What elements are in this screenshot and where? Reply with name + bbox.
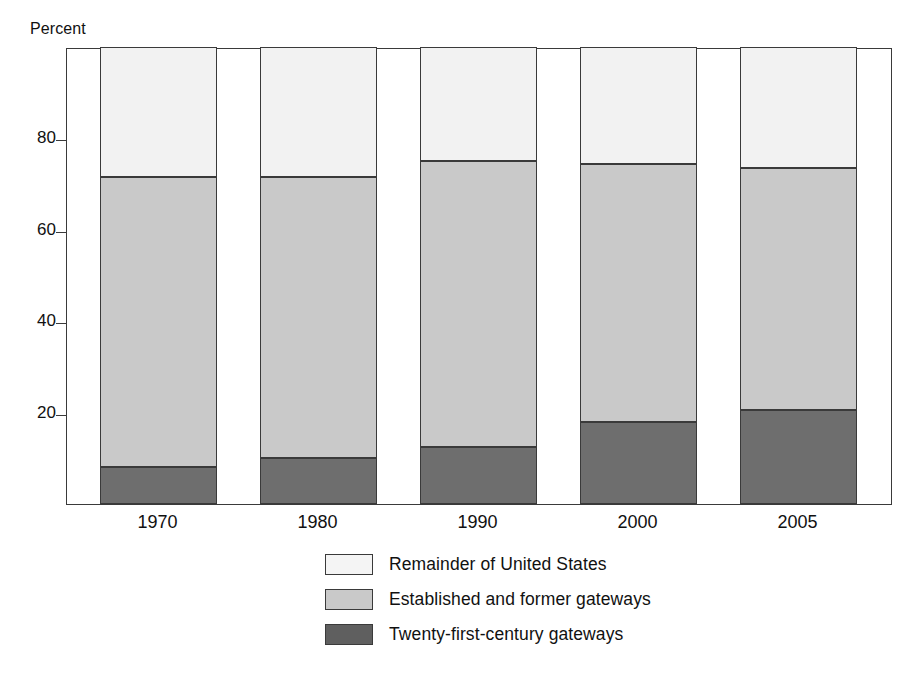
chart-root: Percent 19701980199020002005 20406080 Re…: [0, 0, 915, 677]
legend-label-remainder: Remainder of United States: [389, 554, 607, 575]
bar-segment-twentyfirst-1990[interactable]: [420, 447, 537, 504]
bar-segment-twentyfirst-1970[interactable]: [100, 467, 217, 504]
y-axis-tick-label-40: 40: [14, 311, 56, 331]
x-axis-label-2000: 2000: [578, 512, 698, 533]
y-axis-unit-label: Percent: [30, 20, 86, 38]
bar-segment-remainder-2000[interactable]: [580, 47, 697, 164]
y-axis-tick-label-20: 20: [14, 403, 56, 423]
bar-segment-remainder-1990[interactable]: [420, 47, 537, 161]
bar-1990[interactable]: [420, 47, 537, 504]
y-axis-tick-20: [56, 415, 67, 416]
cutoff-figure-title: [30, 0, 890, 4]
bar-segment-established-2000[interactable]: [580, 164, 697, 422]
bar-segment-twentyfirst-2000[interactable]: [580, 422, 697, 504]
y-axis-tick-40: [56, 323, 67, 324]
y-axis-tick-80: [56, 140, 67, 141]
x-axis-label-1970: 1970: [98, 512, 218, 533]
legend-label-twentyfirst: Twenty-first-century gateways: [389, 624, 623, 645]
bar-2005[interactable]: [740, 47, 857, 504]
bar-segment-established-1990[interactable]: [420, 161, 537, 447]
plot-inner: [67, 49, 891, 504]
legend-item-twentyfirst[interactable]: Twenty-first-century gateways: [325, 619, 745, 649]
plot-area: [66, 48, 892, 505]
bar-2000[interactable]: [580, 47, 697, 504]
y-axis-tick-label-80: 80: [14, 128, 56, 148]
y-axis-tick-label-60: 60: [14, 220, 56, 240]
x-axis-label-2005: 2005: [738, 512, 858, 533]
legend-item-established[interactable]: Established and former gateways: [325, 584, 745, 614]
legend-item-remainder[interactable]: Remainder of United States: [325, 549, 745, 579]
bar-segment-remainder-1980[interactable]: [260, 47, 377, 177]
bar-1980[interactable]: [260, 47, 377, 504]
bar-segment-established-1980[interactable]: [260, 177, 377, 458]
bar-segment-established-1970[interactable]: [100, 177, 217, 467]
bar-1970[interactable]: [100, 47, 217, 504]
legend-swatch-established: [325, 589, 373, 610]
bar-segment-remainder-2005[interactable]: [740, 47, 857, 168]
x-axis-label-1980: 1980: [258, 512, 378, 533]
legend-swatch-twentyfirst: [325, 624, 373, 645]
legend-label-established: Established and former gateways: [389, 589, 651, 610]
bar-segment-twentyfirst-2005[interactable]: [740, 410, 857, 504]
legend-swatch-remainder: [325, 554, 373, 575]
y-axis-tick-60: [56, 232, 67, 233]
chart-legend: Remainder of United StatesEstablished an…: [325, 549, 745, 654]
x-axis-label-1990: 1990: [418, 512, 538, 533]
bar-segment-twentyfirst-1980[interactable]: [260, 458, 377, 504]
bar-segment-established-2005[interactable]: [740, 168, 857, 410]
bar-segment-remainder-1970[interactable]: [100, 47, 217, 177]
